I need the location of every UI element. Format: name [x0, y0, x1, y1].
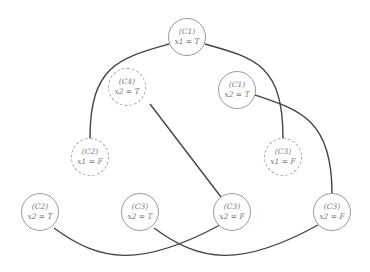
node-assignment: x2 = T: [224, 90, 249, 100]
graph-node: (C3) x2 = F: [213, 193, 251, 231]
graph-node-dashed: (C4) x2 = T: [108, 68, 146, 106]
node-clause: (C2): [32, 202, 48, 212]
node-clause: (C2): [82, 147, 98, 157]
node-clause: (C1): [229, 80, 245, 90]
graph-node-dashed: (C3) x1 = F: [264, 138, 302, 176]
graph-node: (C3) x2 = T: [121, 193, 159, 231]
node-assignment: x1 = T: [174, 37, 199, 47]
node-clause: (C3): [324, 202, 340, 212]
graph-diagram: (C1) x1 = T (C4) x2 = T (C1) x2 = T (C2)…: [0, 0, 370, 272]
node-assignment: x2 = T: [114, 87, 139, 97]
graph-node: (C1) x2 = T: [218, 71, 256, 109]
edge-dashed-left-to-bottom: [150, 104, 221, 197]
node-assignment: x1 = F: [270, 157, 295, 167]
node-assignment: x2 = F: [319, 212, 344, 222]
node-assignment: x2 = F: [219, 212, 244, 222]
node-clause: (C3): [275, 147, 291, 157]
node-clause: (C3): [132, 202, 148, 212]
graph-node-dashed: (C2) x1 = F: [71, 138, 109, 176]
node-assignment: x2 = T: [127, 212, 152, 222]
node-assignment: x1 = F: [77, 157, 102, 167]
graph-node: (C1) x1 = T: [168, 18, 206, 56]
graph-node: (C2) x2 = T: [21, 193, 59, 231]
node-clause: (C4): [119, 77, 135, 87]
node-clause: (C1): [179, 27, 195, 37]
graph-node: (C3) x2 = F: [313, 193, 351, 231]
node-clause: (C3): [224, 202, 240, 212]
node-assignment: x2 = T: [27, 212, 52, 222]
